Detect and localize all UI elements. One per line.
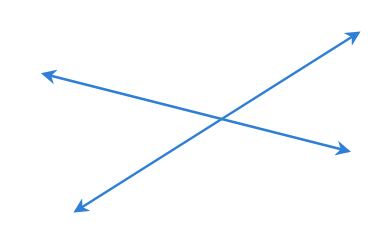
- intersecting-lines-diagram: [0, 0, 368, 229]
- line-a: [44, 74, 348, 151]
- line-b: [76, 33, 358, 211]
